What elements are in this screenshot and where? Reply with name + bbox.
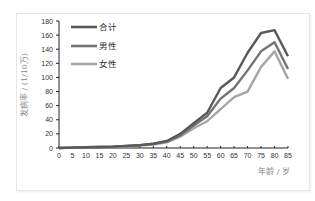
legend-label: 女性 [99,59,117,69]
x-tick-label: 70 [244,152,252,159]
y-tick-label: 140 [41,46,53,53]
y-axis-label: 发病率 / (1/10万) [19,53,29,117]
series-line-合计 [59,30,288,148]
x-tick-label: 35 [149,152,157,159]
x-tick-label: 45 [176,152,184,159]
x-tick-label: 10 [82,152,90,159]
x-tick-label: 65 [230,152,238,159]
x-tick-label: 75 [257,152,265,159]
y-tick-label: 20 [45,130,53,137]
series-line-女性 [59,51,288,148]
x-tick-label: 5 [71,152,75,159]
line-chart: 0204060801001201401601800510152025303540… [0,0,315,201]
x-tick-label: 25 [122,152,130,159]
x-tick-label: 0 [57,152,61,159]
x-tick-label: 40 [163,152,171,159]
series-line-男性 [59,42,288,148]
x-tick-label: 15 [96,152,104,159]
x-tick-label: 60 [217,152,225,159]
y-tick-label: 180 [41,18,53,25]
y-tick-label: 40 [45,116,53,123]
x-tick-label: 20 [109,152,117,159]
x-tick-label: 50 [190,152,198,159]
x-axis-label: 年龄 / 岁 [258,166,290,176]
x-tick-label: 80 [271,152,279,159]
y-tick-label: 60 [45,102,53,109]
y-tick-label: 0 [49,145,53,152]
y-tick-label: 100 [41,74,53,81]
legend-label: 合计 [99,22,117,32]
y-tick-label: 160 [41,32,53,39]
legend-label: 男性 [99,41,117,51]
x-tick-label: 85 [284,152,292,159]
x-tick-label: 55 [203,152,211,159]
y-tick-label: 120 [41,60,53,67]
y-tick-label: 80 [45,88,53,95]
x-tick-label: 30 [136,152,144,159]
